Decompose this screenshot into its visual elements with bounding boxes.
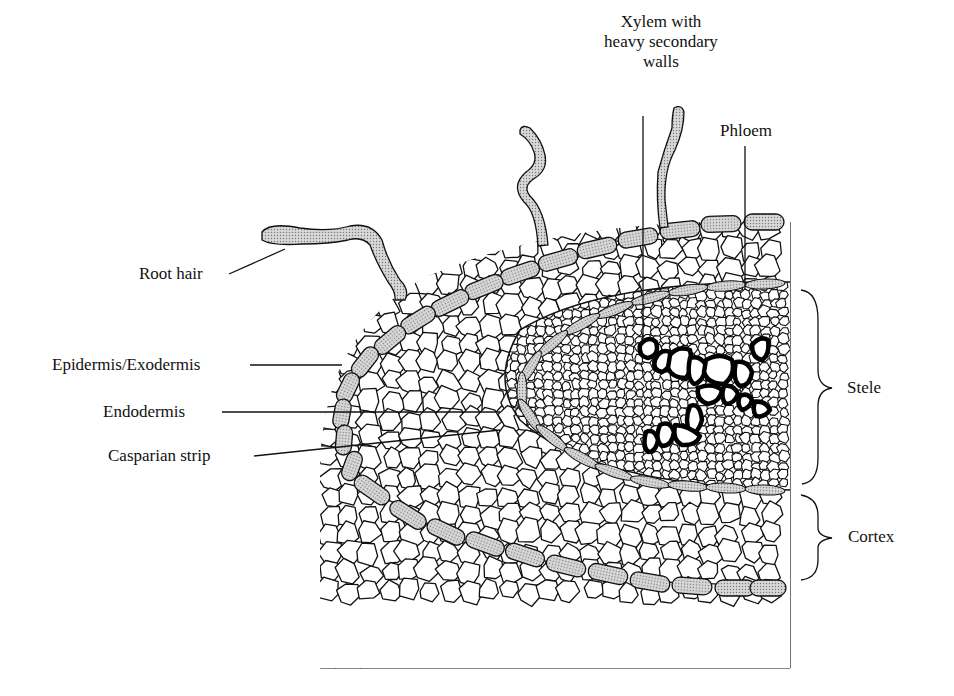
- xylem-label-line2: heavy secondary: [588, 32, 734, 52]
- braces: [801, 290, 832, 580]
- root-hair-right: [657, 107, 684, 228]
- stele-label: Stele: [847, 378, 881, 398]
- xylem-label-line3: walls: [588, 52, 734, 72]
- root-hair-middle: [517, 126, 548, 246]
- stele-brace: [801, 290, 832, 484]
- root-cross-section-diagram: [0, 0, 954, 696]
- xylem-label-line1: Xylem with: [588, 12, 734, 32]
- epidermis-label: Epidermis/Exodermis: [52, 355, 200, 375]
- cortex-label: Cortex: [848, 527, 894, 547]
- cortex-brace: [801, 495, 832, 580]
- endodermis-label: Endodermis: [103, 402, 185, 422]
- root-hair-left: [262, 225, 407, 300]
- casparian-strip-label: Casparian strip: [108, 446, 210, 466]
- xylem-label: Xylem with heavy secondary walls: [588, 12, 734, 72]
- root-hair-label: Root hair: [139, 264, 203, 284]
- phloem-label: Phloem: [720, 121, 772, 141]
